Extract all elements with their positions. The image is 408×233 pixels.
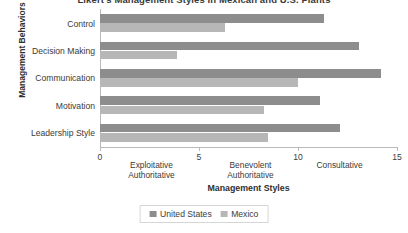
bar-mexico-communication [100,78,298,87]
x-axis-tick-mark [397,147,398,151]
style-band-line-1: Benevolent [227,160,274,170]
bar-mexico-motivation [100,106,264,115]
bar-united-states-communication [100,69,381,78]
chart-legend: United StatesMexico [140,205,269,223]
x-axis-line [100,147,397,148]
chart-category-row: Leadership Style [100,120,397,147]
bar-united-states-decision-making [100,42,359,51]
x-axis-tick-label: 15 [392,152,402,162]
style-band-line-1: Exploitative [128,160,175,170]
chart-category-row: Decision Making [100,37,397,64]
y-axis-tick-label: Motivation [56,101,95,111]
x-axis-tick-label: 5 [197,152,202,162]
legend-item-mexico[interactable]: Mexico [221,209,259,219]
y-axis-tick-label: Decision Making [32,46,95,56]
x-axis-tick-mark [298,147,299,151]
x-axis-style-band-label: BenevolentAuthoritative [227,160,274,180]
x-axis-style-band-label: ExploitativeAuthoritative [128,160,175,180]
chart-title: Likert's Management Styles in Mexican an… [0,0,408,5]
bar-united-states-leadership-style [100,124,340,133]
y-axis-tick-label: Control [67,19,95,29]
plot-area: ControlDecision MakingCommunicationMotiv… [100,10,397,147]
bar-united-states-control [100,14,324,23]
legend-label: Mexico [231,209,258,219]
x-axis-tick-mark [100,147,101,151]
style-band-line-2: Authoritative [227,170,274,180]
x-axis-tick-mark [199,147,200,151]
bar-united-states-motivation [100,96,320,105]
legend-swatch-icon [150,211,157,218]
legend-item-united-states[interactable]: United States [150,209,212,219]
y-axis-tick-label: Leadership Style [31,128,95,138]
chart-category-row: Control [100,10,397,37]
y-axis-tick-label: Communication [35,73,95,83]
x-axis-tick-label: 0 [98,152,103,162]
x-axis-style-band-label: Consultative [317,160,363,170]
bar-mexico-leadership-style [100,133,268,142]
chart-category-row: Communication [100,65,397,92]
x-axis-tick-label: 10 [293,152,303,162]
y-axis-title: Management Behaviors [17,0,27,110]
style-band-line-1: Consultative [317,160,363,170]
style-band-line-2: Authoritative [128,170,175,180]
x-axis-title: Management Styles [100,183,397,193]
chart-category-row: Motivation [100,92,397,119]
bar-mexico-decision-making [100,51,177,60]
bar-mexico-control [100,23,225,32]
legend-swatch-icon [221,211,228,218]
legend-label: United States [160,209,212,219]
